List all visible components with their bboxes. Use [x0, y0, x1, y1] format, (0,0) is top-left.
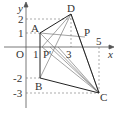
coordinate-diagram: y x O 1 3 5 1 2 -2 -3 A B C D P P' [0, 0, 119, 117]
y-tick-neg2: -2 [13, 72, 22, 84]
origin-label: O [16, 48, 24, 60]
point-A-label: A [31, 22, 39, 34]
x-tick-3: 3 [66, 48, 72, 60]
point-D-label: D [67, 2, 75, 14]
fan-line-2 [58, 47, 99, 93]
x-tick-1: 1 [33, 48, 39, 60]
y-axis-arrow-icon [24, 2, 28, 7]
y-tick-1: 1 [18, 27, 24, 39]
y-tick-2: 2 [18, 13, 24, 25]
point-C-label: C [100, 91, 107, 103]
x-tick-5: 5 [96, 35, 102, 47]
x-axis-label: x [107, 48, 113, 60]
point-Pprime-label: P' [43, 48, 51, 60]
point-P-label: P [84, 26, 90, 38]
fan-line-1 [50, 47, 99, 93]
point-B-label: B [35, 80, 42, 92]
y-tick-neg3: -3 [13, 87, 23, 99]
segment-AC [40, 33, 99, 93]
